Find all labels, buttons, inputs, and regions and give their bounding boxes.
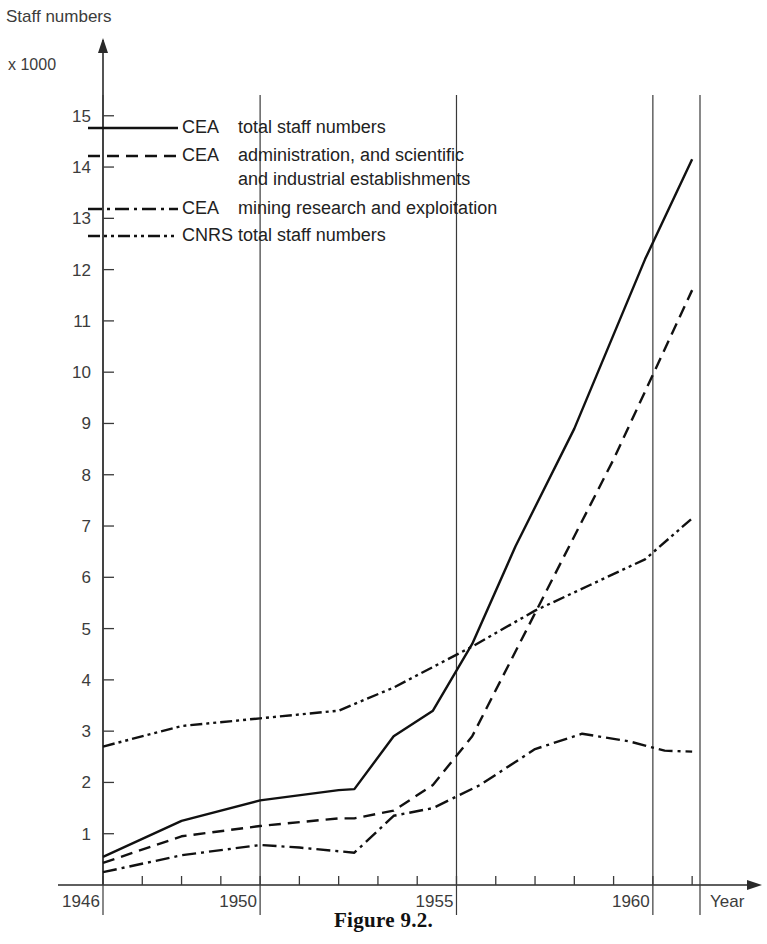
y-tick-label: 4 — [82, 671, 91, 690]
axis-captions-group: Staff numbersx 1000Year — [6, 7, 745, 911]
y-tick-label: 11 — [73, 312, 91, 331]
y-tick-label: 15 — [72, 107, 91, 126]
y-tick-label: 13 — [72, 209, 91, 228]
y-tick-label: 3 — [82, 722, 91, 741]
axes-group — [58, 38, 762, 890]
y-tick-label: 10 — [72, 363, 91, 382]
x-axis-arrow — [747, 880, 762, 890]
series-line-solid — [103, 159, 692, 856]
y-axis-arrow — [98, 38, 108, 53]
y-tick-label: 12 — [72, 261, 91, 280]
series-line-dash-dot — [103, 734, 692, 872]
major-gridlines-group — [103, 95, 700, 915]
y-axis-title: Staff numbers — [6, 7, 112, 26]
legend-description: total staff numbers — [238, 225, 386, 245]
legend-description: total staff numbers — [238, 117, 386, 137]
y-axis-unit-label: x 1000 — [8, 56, 56, 73]
legend-key-label: CEA — [182, 198, 219, 218]
series-line-dashed — [103, 290, 692, 863]
y-tick-label: 14 — [72, 158, 91, 177]
chart-legend: CEAtotal staff numbersCEAadministration,… — [88, 117, 497, 245]
legend-key-label: CEA — [182, 145, 219, 165]
y-tick-label: 2 — [82, 773, 91, 792]
y-tick-label: 9 — [82, 414, 91, 433]
figure-caption: Figure 9.2. — [0, 908, 767, 933]
y-tick-label: 8 — [82, 466, 91, 485]
legend-key-label: CEA — [182, 117, 219, 137]
line-chart: 1234567891011121314151946195019551960 St… — [0, 0, 767, 944]
y-tick-label: 6 — [82, 568, 91, 587]
y-tick-label: 5 — [82, 620, 91, 639]
figure-container: 1234567891011121314151946195019551960 St… — [0, 0, 767, 944]
y-tick-label: 1 — [82, 825, 91, 844]
series-group — [103, 159, 692, 872]
legend-description: administration, and scientific — [238, 145, 464, 165]
y-tick-label: 7 — [82, 517, 91, 536]
legend-key-label: CNRS — [182, 225, 233, 245]
series-line-dash-dot-dot — [103, 518, 692, 746]
legend-description-line2: and industrial establishments — [238, 169, 470, 189]
legend-description: mining research and exploitation — [238, 198, 497, 218]
